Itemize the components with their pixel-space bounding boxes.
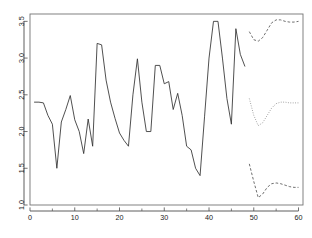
x-axis-tick-label: 60 [295, 213, 303, 222]
forecast-plot: 0102030405060 1.01.52.02.53.03.5 [0, 0, 312, 238]
x-axis-tick-label: 50 [250, 213, 258, 222]
series-forecast-upper [249, 20, 298, 41]
x-axis-tick-label: 30 [160, 213, 168, 222]
series-forecast-mean [249, 98, 298, 125]
x-axis-tick-label: 10 [71, 213, 79, 222]
y-axis-tick-label: 1.0 [17, 200, 26, 210]
x-axis-tick-label: 0 [28, 213, 32, 222]
y-axis: 1.01.52.02.53.03.5 [17, 16, 28, 210]
y-axis-tick-label: 2.0 [17, 127, 26, 137]
x-axis-tick-label: 20 [116, 213, 124, 222]
y-axis-tick-label: 3.0 [17, 53, 26, 63]
chart-series-group [34, 20, 298, 198]
y-axis-tick-label: 2.5 [17, 90, 26, 100]
x-axis: 0102030405060 [28, 207, 303, 222]
plot-frame [30, 14, 303, 205]
series-forecast-lower [249, 164, 298, 198]
x-axis-tick-label: 40 [205, 213, 213, 222]
y-axis-tick-label: 1.5 [17, 163, 26, 173]
plot-border [30, 14, 303, 205]
series-observed [34, 21, 244, 175]
y-axis-tick-label: 3.5 [17, 16, 26, 26]
chart-canvas: 0102030405060 1.01.52.02.53.03.5 [0, 0, 312, 238]
